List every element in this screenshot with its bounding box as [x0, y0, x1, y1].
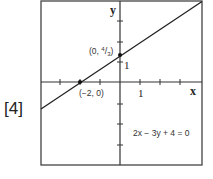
y-tick-label-1: 1 [124, 59, 130, 71]
y-intercept-annotation: (0, 4/3) [89, 46, 113, 57]
x-tick-label-1: 1 [138, 87, 144, 99]
y-intercept-point [118, 53, 122, 57]
equation-label: 2x − 3y + 4 = 0 [133, 128, 190, 138]
y-axis-label: y [110, 3, 116, 17]
x-intercept-annotation: (−2, 0) [79, 88, 104, 98]
line-graph: y x 1 1 (0, 4/3) (−2, 0) 2x − 3y + 4 = 0 [0, 0, 213, 179]
plot-frame [41, 1, 202, 165]
x-axis-label: x [190, 84, 196, 98]
x-intercept-point [78, 80, 82, 84]
